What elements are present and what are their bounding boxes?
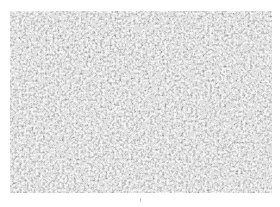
grain-texture [10, 11, 272, 193]
tick-mark [140, 198, 141, 202]
micrograph-image [10, 11, 272, 193]
